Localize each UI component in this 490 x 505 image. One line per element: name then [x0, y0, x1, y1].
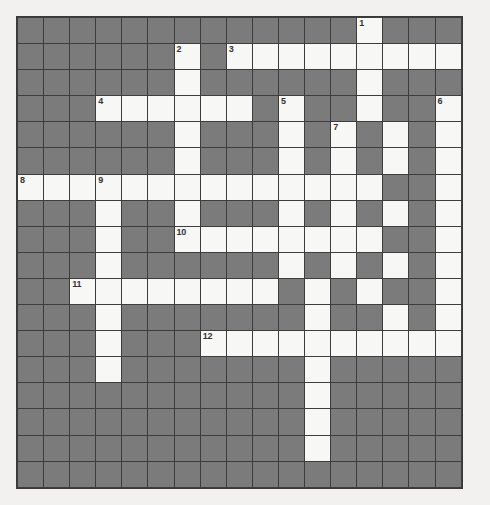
crossword-cell-open[interactable] — [305, 409, 331, 435]
crossword-cell-open[interactable] — [331, 226, 357, 252]
crossword-cell-open[interactable] — [357, 174, 383, 200]
crossword-cell-open[interactable] — [122, 174, 148, 200]
crossword-cell-open[interactable] — [200, 226, 226, 252]
crossword-cell-open[interactable] — [278, 252, 304, 278]
crossword-cell-open[interactable] — [383, 44, 409, 70]
crossword-cell-open[interactable] — [96, 278, 122, 304]
crossword-cell-open[interactable] — [96, 331, 122, 357]
crossword-cell-open[interactable] — [278, 331, 304, 357]
crossword-cell-open[interactable] — [435, 174, 461, 200]
crossword-cell-open[interactable] — [409, 44, 435, 70]
crossword-cell-open[interactable] — [252, 174, 278, 200]
crossword-cell-open[interactable] — [174, 148, 200, 174]
crossword-cell-open[interactable] — [96, 305, 122, 331]
crossword-cell-open[interactable]: 8 — [18, 174, 44, 200]
crossword-cell-open[interactable] — [383, 200, 409, 226]
crossword-cell-open[interactable] — [331, 174, 357, 200]
crossword-cell-open[interactable] — [383, 252, 409, 278]
crossword-cell-open[interactable] — [357, 226, 383, 252]
crossword-cell-open[interactable] — [435, 148, 461, 174]
crossword-cell-open[interactable] — [148, 174, 174, 200]
crossword-cell-open[interactable] — [305, 305, 331, 331]
crossword-cell-open[interactable] — [278, 200, 304, 226]
crossword-cell-open[interactable] — [305, 357, 331, 383]
crossword-cell-open[interactable]: 9 — [96, 174, 122, 200]
crossword-cell-open[interactable] — [305, 278, 331, 304]
crossword-cell-open[interactable] — [435, 252, 461, 278]
crossword-cell-open[interactable] — [435, 44, 461, 70]
crossword-cell-open[interactable] — [305, 174, 331, 200]
crossword-cell-open[interactable] — [435, 122, 461, 148]
crossword-cell-open[interactable] — [96, 252, 122, 278]
crossword-cell-open[interactable]: 5 — [278, 96, 304, 122]
crossword-cell-open[interactable] — [148, 278, 174, 304]
crossword-cell-open[interactable] — [357, 44, 383, 70]
crossword-cell-open[interactable] — [435, 331, 461, 357]
crossword-cell-open[interactable]: 12 — [200, 331, 226, 357]
crossword-cell-open[interactable] — [226, 96, 252, 122]
crossword-cell-open[interactable] — [435, 200, 461, 226]
crossword-cell-open[interactable] — [122, 278, 148, 304]
crossword-cell-open[interactable] — [252, 226, 278, 252]
crossword-cell-open[interactable] — [435, 305, 461, 331]
crossword-cell-open[interactable] — [305, 435, 331, 461]
crossword-cell-open[interactable] — [174, 200, 200, 226]
crossword-cell-open[interactable] — [96, 226, 122, 252]
crossword-cell-open[interactable] — [174, 122, 200, 148]
crossword-cell-open[interactable] — [278, 122, 304, 148]
crossword-cell-open[interactable] — [305, 383, 331, 409]
crossword-cell-open[interactable] — [357, 278, 383, 304]
crossword-cell-open[interactable]: 10 — [174, 226, 200, 252]
crossword-cell-open[interactable] — [331, 252, 357, 278]
crossword-cell-open[interactable] — [435, 226, 461, 252]
crossword-cell-open[interactable] — [331, 331, 357, 357]
crossword-cell-open[interactable]: 2 — [174, 44, 200, 70]
crossword-cell-open[interactable]: 7 — [331, 122, 357, 148]
crossword-cell-open[interactable] — [278, 174, 304, 200]
crossword-cell-open[interactable] — [383, 331, 409, 357]
crossword-cell-open[interactable] — [44, 174, 70, 200]
crossword-cell-open[interactable] — [252, 44, 278, 70]
crossword-cell-open[interactable] — [331, 148, 357, 174]
crossword-cell-open[interactable] — [226, 174, 252, 200]
crossword-cell-open[interactable] — [383, 305, 409, 331]
crossword-cell-open[interactable] — [200, 278, 226, 304]
crossword-cell-open[interactable] — [70, 174, 96, 200]
crossword-cell-open[interactable] — [357, 96, 383, 122]
crossword-cell-open[interactable]: 6 — [435, 96, 461, 122]
crossword-cell-open[interactable] — [252, 278, 278, 304]
crossword-cell-open[interactable] — [174, 278, 200, 304]
crossword-cell-open[interactable] — [226, 278, 252, 304]
crossword-cell-open[interactable] — [305, 226, 331, 252]
crossword-cell-open[interactable]: 3 — [226, 44, 252, 70]
crossword-cell-open[interactable] — [357, 331, 383, 357]
crossword-cell-open[interactable] — [278, 148, 304, 174]
crossword-cell-open[interactable] — [174, 96, 200, 122]
crossword-cell-open[interactable] — [226, 226, 252, 252]
crossword-cell-open[interactable] — [357, 70, 383, 96]
crossword-cell-open[interactable] — [305, 331, 331, 357]
crossword-cell-open[interactable] — [331, 44, 357, 70]
crossword-cell-open[interactable] — [305, 44, 331, 70]
crossword-cell-open[interactable] — [252, 331, 278, 357]
crossword-cell-open[interactable] — [174, 70, 200, 96]
crossword-cell-open[interactable] — [122, 96, 148, 122]
crossword-cell-open[interactable] — [278, 226, 304, 252]
crossword-cell-open[interactable] — [383, 122, 409, 148]
crossword-cell-open[interactable]: 11 — [70, 278, 96, 304]
crossword-cell-open[interactable] — [174, 174, 200, 200]
crossword-cell-open[interactable] — [409, 331, 435, 357]
crossword-cell-open[interactable]: 4 — [96, 96, 122, 122]
crossword-cell-open[interactable] — [226, 331, 252, 357]
crossword-cell-open[interactable] — [383, 148, 409, 174]
crossword-cell-open[interactable] — [435, 278, 461, 304]
crossword-cell-open[interactable] — [96, 200, 122, 226]
crossword-cell-open[interactable] — [200, 174, 226, 200]
crossword-cell-open[interactable] — [96, 357, 122, 383]
crossword-cell-open[interactable] — [148, 96, 174, 122]
crossword-grid[interactable]: 123456789101112 — [17, 17, 462, 488]
crossword-cell-open[interactable] — [278, 44, 304, 70]
crossword-cell-open[interactable] — [200, 96, 226, 122]
crossword-cell-open[interactable] — [331, 200, 357, 226]
crossword-cell-open[interactable]: 1 — [357, 18, 383, 44]
